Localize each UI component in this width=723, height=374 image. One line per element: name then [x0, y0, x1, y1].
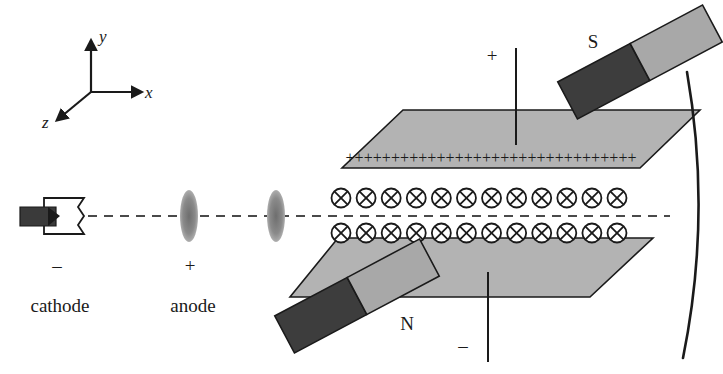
plate-charge-plus: +: [537, 149, 546, 166]
diagram-canvas: y x z – cathode + anode +++++++: [0, 0, 723, 374]
plate-charge-plus: +: [509, 149, 518, 166]
plate-charge-plus: +: [345, 149, 354, 166]
field-into-page-symbol: [608, 224, 627, 243]
plate-charge-plus: +: [564, 149, 573, 166]
field-into-page-symbol: [357, 189, 376, 208]
field-into-page-symbol: [332, 224, 351, 243]
field-into-page-symbol: [582, 224, 601, 243]
field-into-page-symbol: [407, 189, 426, 208]
field-into-page-symbol: [407, 224, 426, 243]
plate-charge-plus: +: [527, 149, 536, 166]
field-into-page-symbol: [457, 224, 476, 243]
magnet-south-light-pole: [630, 5, 722, 81]
plate-charge-plus: +: [600, 149, 609, 166]
axis-y-label: y: [97, 27, 107, 46]
plate-charge-plus: +: [464, 149, 473, 166]
plate-charge-plus: +: [627, 149, 636, 166]
cathode-sign: –: [51, 255, 62, 276]
cathode-label: cathode: [30, 295, 89, 316]
axis-z-line: [62, 92, 91, 116]
axis-z-label: z: [41, 113, 49, 132]
plate-charge-plus: +: [618, 149, 627, 166]
field-into-page-symbol: [532, 189, 551, 208]
plate-charge-plus: +: [400, 149, 409, 166]
plate-charge-plus: +: [482, 149, 491, 166]
plate-charge-plus: +: [364, 149, 373, 166]
cathode-assembly: [20, 198, 84, 234]
field-into-page-symbol: [382, 224, 401, 243]
field-into-page-symbol: [507, 224, 526, 243]
field-into-page-symbol: [608, 189, 627, 208]
plate-charge-plus: +: [391, 149, 400, 166]
anode-lens-first: [180, 190, 198, 242]
plate-charge-plus: +: [418, 149, 427, 166]
field-into-page-symbol: [507, 189, 526, 208]
plate-charge-plus: +: [518, 149, 527, 166]
field-into-page-symbol: [582, 189, 601, 208]
plate-charge-plus: +: [473, 149, 482, 166]
field-into-page-symbol: [557, 189, 576, 208]
coordinate-axes: y x z: [41, 27, 153, 132]
axis-x-label: x: [144, 83, 153, 102]
plate-charge-plus: +: [409, 149, 418, 166]
field-into-page-symbol: [482, 189, 501, 208]
magnet-south: [558, 5, 723, 119]
plate-charge-plus: +: [427, 149, 436, 166]
magnet-south-label: S: [588, 31, 599, 52]
field-into-page-symbol: [332, 189, 351, 208]
plate-charge-plus: +: [555, 149, 564, 166]
field-into-page-symbol: [457, 189, 476, 208]
plate-charge-plus: +: [500, 149, 509, 166]
anode-sign: +: [185, 255, 196, 276]
magnet-north-label: N: [400, 313, 414, 334]
plate-charge-plus: +: [436, 149, 445, 166]
field-into-page-symbol: [532, 224, 551, 243]
plate-charge-plus: +: [373, 149, 382, 166]
field-into-page-symbol: [482, 224, 501, 243]
field-into-page-symbol: [557, 224, 576, 243]
plate-charge-plus: +: [455, 149, 464, 166]
plate-charge-plus: +: [491, 149, 500, 166]
plate-charge-plus: +: [355, 149, 364, 166]
plate-charge-plus: +: [382, 149, 391, 166]
field-into-page-symbol: [382, 189, 401, 208]
field-into-page-symbol: [432, 224, 451, 243]
plate-charge-plus: +: [591, 149, 600, 166]
plate-charge-plus: +: [573, 149, 582, 166]
plate-charge-plus: +: [446, 149, 455, 166]
field-into-page-symbol: [357, 224, 376, 243]
top-plate-charge-row: ++++++++++++++++++++++++++++++++: [345, 149, 636, 166]
positive-terminal-label: +: [487, 45, 498, 66]
physics-diagram: y x z – cathode + anode +++++++: [0, 0, 723, 374]
plate-charge-plus: +: [582, 149, 591, 166]
plate-charge-plus: +: [546, 149, 555, 166]
anode-label: anode: [170, 295, 215, 316]
field-into-page-symbol: [432, 189, 451, 208]
negative-terminal-label: –: [457, 335, 468, 356]
anode-lens-second: [267, 190, 285, 242]
plate-charge-plus: +: [609, 149, 618, 166]
